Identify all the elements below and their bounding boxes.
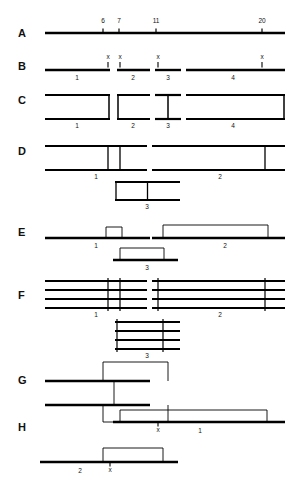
row-label-g: G — [18, 375, 27, 386]
e-loop-box-2 — [163, 225, 268, 238]
row-label-c: C — [18, 95, 26, 106]
row-label-h: H — [18, 422, 26, 433]
e-number-3: 3 — [140, 265, 154, 272]
crossover-x-2: x — [153, 54, 163, 61]
row-a-graphics — [45, 29, 285, 34]
duplex-number-3: 3 — [161, 123, 175, 130]
row-c-graphics — [45, 95, 285, 119]
fragment-number-2: 2 — [126, 75, 140, 82]
row-e-graphics — [45, 225, 285, 260]
row-label-f: F — [18, 290, 25, 301]
g-lower-box — [103, 405, 168, 422]
fragment-number-1: 1 — [70, 75, 84, 82]
crossover-x-1: x — [115, 54, 125, 61]
row-label-d: D — [18, 146, 26, 157]
e-loop-box-1 — [106, 227, 122, 238]
h-box-2 — [103, 448, 163, 462]
g-upper-box — [103, 362, 168, 381]
schematic-svg — [0, 0, 296, 490]
crossover-x-3: x — [257, 54, 267, 61]
f-number-1: 1 — [89, 312, 103, 319]
fragment-number-3: 3 — [161, 75, 175, 82]
f-number-2: 2 — [213, 312, 227, 319]
e-number-1: 1 — [89, 243, 103, 250]
figure-canvas: ABCDEFGH6711201234xxxx1234123123123x1x2 — [0, 0, 296, 490]
row-g-graphics — [45, 362, 168, 422]
row-label-b: B — [18, 61, 26, 72]
h-crossover-x-1: x — [153, 427, 163, 434]
duplex-number-2: 2 — [126, 123, 140, 130]
row-label-e: E — [18, 227, 26, 238]
e-loop-box-3 — [120, 248, 164, 260]
duplex-number-4: 4 — [226, 123, 240, 130]
h-box-1 — [120, 410, 267, 422]
h-number-2: 2 — [73, 468, 87, 475]
e-number-2: 2 — [218, 243, 232, 250]
row-d-graphics — [45, 146, 285, 200]
f-number-3: 3 — [140, 353, 154, 360]
d-duplex-number-3: 3 — [140, 204, 154, 211]
duplex-number-1: 1 — [70, 123, 84, 130]
h-crossover-x-2: x — [105, 467, 115, 474]
row-f-graphics — [45, 278, 285, 352]
scale-tick-label-7: 7 — [112, 18, 126, 25]
scale-tick-label-11: 11 — [149, 18, 163, 25]
row-b-graphics — [45, 62, 285, 70]
row-label-a: A — [18, 28, 26, 39]
fragment-number-4: 4 — [226, 75, 240, 82]
row-h-graphics — [40, 410, 285, 467]
scale-tick-label-20: 20 — [255, 18, 269, 25]
d-duplex-number-1: 1 — [89, 174, 103, 181]
d-duplex-number-2: 2 — [213, 174, 227, 181]
h-number-1: 1 — [193, 428, 207, 435]
crossover-x-0: x — [103, 54, 113, 61]
scale-tick-label-6: 6 — [96, 18, 110, 25]
